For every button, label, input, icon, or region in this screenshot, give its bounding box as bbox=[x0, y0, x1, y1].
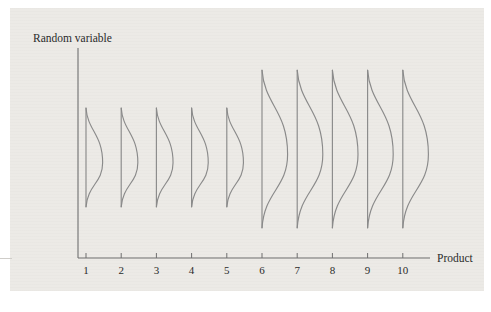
distribution-density-curve bbox=[368, 70, 394, 228]
distribution-density-curve bbox=[86, 108, 103, 207]
distribution-7 bbox=[297, 70, 323, 228]
x-axis-tick-label: 2 bbox=[118, 264, 124, 276]
figure-container: Random variable Product 12345678910 bbox=[0, 0, 491, 312]
x-axis-tick-group bbox=[86, 253, 403, 258]
distribution-density-curve bbox=[192, 108, 209, 207]
distribution-density-curve bbox=[227, 108, 244, 207]
distribution-density-curve bbox=[156, 108, 173, 207]
distribution-10 bbox=[403, 70, 429, 228]
x-axis-tick-label: 10 bbox=[397, 264, 409, 276]
x-axis-label: Product bbox=[437, 252, 474, 264]
x-axis-tick-label: 6 bbox=[259, 264, 265, 276]
distribution-density-curve bbox=[121, 108, 138, 207]
distribution-4 bbox=[192, 108, 209, 207]
distribution-1 bbox=[86, 108, 103, 207]
y-axis-label: Random variable bbox=[33, 32, 112, 44]
distribution-9 bbox=[368, 70, 394, 228]
distribution-8 bbox=[332, 70, 358, 228]
distribution-density-curve bbox=[403, 70, 429, 228]
x-axis-tick-label: 9 bbox=[365, 264, 371, 276]
distribution-2 bbox=[121, 108, 138, 207]
x-axis-tick-label: 4 bbox=[189, 264, 195, 276]
x-axis-tick-label: 8 bbox=[330, 264, 336, 276]
distribution-5 bbox=[227, 108, 244, 207]
distribution-density-curve bbox=[262, 70, 288, 228]
x-axis-tick-label: 5 bbox=[224, 264, 230, 276]
distribution-6 bbox=[262, 70, 288, 228]
distribution-curve-group bbox=[86, 70, 428, 228]
x-axis-tick-label-group: 12345678910 bbox=[83, 264, 409, 276]
distribution-3 bbox=[156, 108, 173, 207]
distribution-density-curve bbox=[332, 70, 358, 228]
distribution-density-curve bbox=[297, 70, 323, 228]
x-axis-tick-label: 1 bbox=[83, 264, 89, 276]
x-axis-tick-label: 3 bbox=[154, 264, 160, 276]
x-axis-tick-label: 7 bbox=[294, 264, 300, 276]
distribution-chart: Random variable Product 12345678910 bbox=[0, 0, 491, 312]
